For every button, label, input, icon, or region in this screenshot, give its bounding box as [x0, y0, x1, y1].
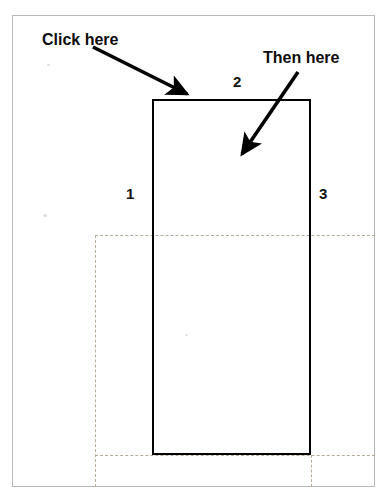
guide-line-vertical-left — [95, 235, 96, 487]
clipped-caption-text: below left. — [44, 0, 274, 5]
edge-label-right: 3 — [319, 186, 327, 201]
guide-line-horizontal-lower — [95, 455, 375, 456]
callout-click-here: Click here — [42, 32, 118, 48]
callout-then-here: Then here — [263, 50, 339, 66]
edge-label-left: 1 — [126, 186, 134, 201]
screenshot-root: below left. 2 1 3 Click here Then here — [0, 0, 383, 491]
scan-speckle — [43, 214, 47, 217]
guide-line-vertical-right — [311, 455, 312, 487]
main-rectangle[interactable] — [152, 99, 311, 455]
scan-speckle — [47, 64, 50, 66]
edge-label-top: 2 — [233, 74, 241, 89]
